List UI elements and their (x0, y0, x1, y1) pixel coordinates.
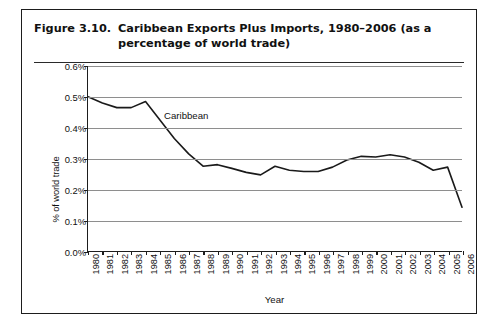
y-tick-mark (84, 159, 88, 160)
x-tick-label: 1991 (250, 254, 260, 274)
y-tick-label: 0.5% (42, 92, 86, 103)
x-tick-label: 1981 (105, 254, 115, 274)
y-axis-tick-labels: 0.6%0.5%0.4%0.3%0.2%0.1%0.0% (42, 66, 86, 258)
y-tick-label: 0.4% (42, 123, 86, 134)
x-tick-label: 1994 (293, 254, 303, 274)
plot-inner (88, 66, 462, 251)
y-tick-label: 0.3% (42, 154, 86, 165)
title-divider (34, 62, 464, 63)
figure-card: Figure 3.10. Caribbean Exports Plus Impo… (21, 9, 477, 314)
x-tick-label: 1988 (206, 254, 216, 274)
gridline (88, 128, 462, 129)
figure-number: Figure 3.10. (34, 21, 111, 36)
y-tick-label: 0.6% (42, 61, 86, 72)
x-tick-label: 1989 (221, 254, 231, 274)
x-tick-label: 2004 (437, 254, 447, 274)
page-title: Caribbean Exports Plus Imports, 1980–200… (118, 21, 466, 51)
y-tick-label: 0.0% (42, 247, 86, 258)
x-tick-label: 1982 (120, 254, 130, 274)
y-tick-mark (84, 97, 88, 98)
x-tick-label: 2001 (394, 254, 404, 274)
gridline (88, 159, 462, 160)
x-tick-label: 2006 (466, 254, 476, 274)
x-tick-label: 1999 (365, 254, 375, 274)
x-axis-label: Year (87, 294, 462, 305)
gridline (88, 97, 462, 98)
x-tick-label: 2000 (379, 254, 389, 274)
x-tick-label: 2003 (423, 254, 433, 274)
x-tick-label: 1995 (307, 254, 317, 274)
y-tick-mark (84, 221, 88, 222)
x-tick-label: 1986 (178, 254, 188, 274)
x-tick-mark (463, 251, 464, 255)
gridline (88, 190, 462, 191)
figure-title-block: Figure 3.10. Caribbean Exports Plus Impo… (34, 21, 466, 51)
x-tick-label: 1983 (134, 254, 144, 274)
x-tick-label: 1990 (235, 254, 245, 274)
series-annotation-caribbean: Caribbean (164, 110, 208, 121)
x-tick-label: 1993 (279, 254, 289, 274)
chart-area: % of world trade 0.6%0.5%0.4%0.3%0.2%0.1… (22, 66, 478, 313)
y-tick-mark (84, 66, 88, 67)
x-tick-label: 1997 (336, 254, 346, 274)
x-tick-label: 1985 (163, 254, 173, 274)
gridline (88, 66, 462, 67)
x-tick-label: 1996 (322, 254, 332, 274)
x-tick-label: 2002 (408, 254, 418, 274)
x-tick-label: 1980 (91, 254, 101, 274)
y-tick-mark (84, 128, 88, 129)
x-tick-label: 1998 (351, 254, 361, 274)
x-tick-label: 1987 (192, 254, 202, 274)
y-tick-label: 0.2% (42, 185, 86, 196)
x-tick-label: 2005 (452, 254, 462, 274)
x-axis-tick-labels: 1980198119821983198419851986198719881989… (87, 254, 462, 296)
x-tick-label: 1992 (264, 254, 274, 274)
gridline (88, 221, 462, 222)
plot-frame (87, 66, 462, 252)
y-tick-mark (84, 190, 88, 191)
y-tick-label: 0.1% (42, 216, 86, 227)
x-tick-label: 1984 (149, 254, 159, 274)
